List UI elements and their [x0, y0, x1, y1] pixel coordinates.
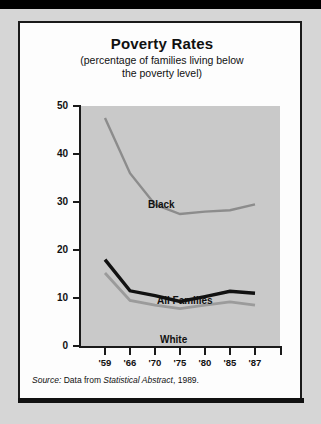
figure-card: Poverty Rates (percentage of families li… [18, 21, 302, 400]
plot-area: 01020304050 '59'66'70'75'80'85'87 Black … [20, 23, 304, 402]
series-label-black: Black [148, 199, 175, 210]
source-prefix: Source: [32, 375, 61, 385]
source-year: , 1989. [173, 375, 199, 385]
line-series-black [105, 118, 255, 214]
card-bottom-rule [18, 398, 304, 403]
series-lines [20, 23, 304, 402]
source-publication: Statistical Abstract [103, 375, 173, 385]
series-label-all-families: All Families [157, 295, 213, 306]
series-label-white: White [160, 334, 187, 345]
source-mid: Data from [61, 375, 103, 385]
page-top-bar [0, 0, 321, 9]
source-note: Source: Data from Statistical Abstract, … [32, 375, 300, 385]
